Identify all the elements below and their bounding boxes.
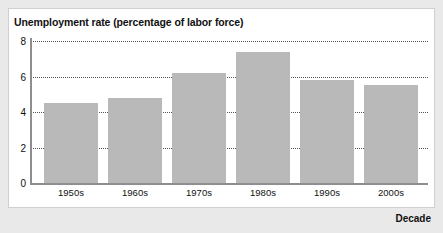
bars-layer (0, 0, 443, 183)
bar-1960s (108, 98, 162, 183)
x-axis-line (30, 183, 428, 185)
x-tick-label-1950s: 1950s (44, 187, 98, 198)
bar-1980s (236, 52, 290, 183)
bar-1950s (44, 103, 98, 183)
x-tick-label-1980s: 1980s (236, 187, 290, 198)
x-tick-label-1990s: 1990s (300, 187, 354, 198)
bar-1990s (300, 80, 354, 183)
x-tick-label-1970s: 1970s (172, 187, 226, 198)
bar-2000s (364, 85, 418, 183)
x-tick-label-2000s: 2000s (364, 187, 418, 198)
chart-screenshot: Unemployment rate (percentage of labor f… (0, 0, 443, 233)
x-axis-title: Decade (395, 213, 431, 224)
bar-1970s (172, 73, 226, 183)
x-tick-label-1960s: 1960s (108, 187, 162, 198)
